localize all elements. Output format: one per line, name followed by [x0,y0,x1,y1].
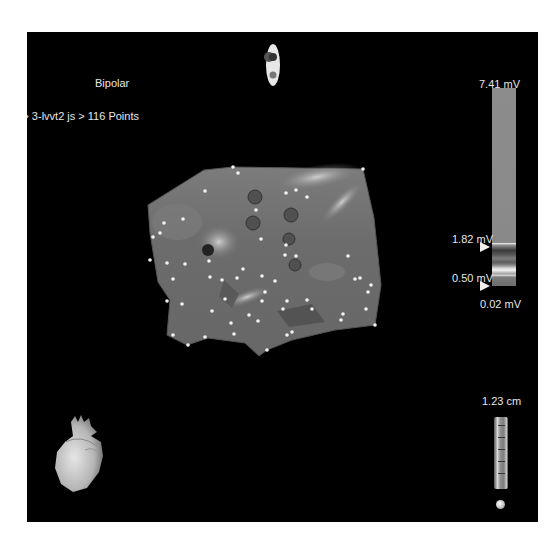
voltage-colorbar[interactable] [492,88,516,286]
scale-ball-icon [496,500,505,509]
lower-threshold-triangle-icon[interactable] [480,281,490,291]
colorbar-min-label: 0.02 mV [480,298,521,310]
scale-bar [494,417,508,489]
heart-orientation-icon[interactable] [51,412,113,498]
scale-label: 1.23 cm [482,395,521,407]
electroanatomic-map-viewport[interactable]: Bipolar •3-lvvt2 js > 116 Points [27,32,538,522]
upper-threshold-triangle-icon[interactable] [480,242,490,252]
